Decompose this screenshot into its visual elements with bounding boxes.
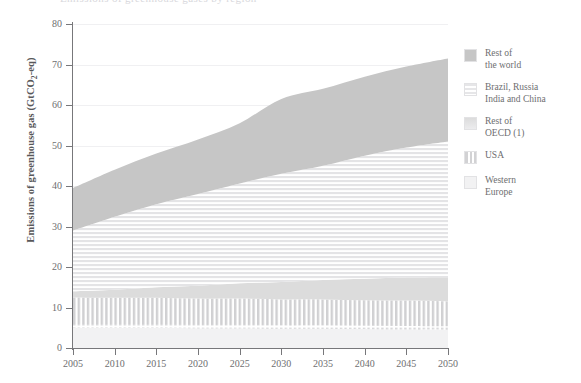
- y-tick-80: [66, 24, 73, 25]
- x-tick-2040: [365, 348, 366, 355]
- x-tick-2020: [198, 348, 199, 355]
- x-tick-label-2015: 2015: [134, 358, 178, 369]
- x-tick-label-2005: 2005: [51, 358, 95, 369]
- y-tick-label-60: 60: [20, 100, 62, 110]
- y-tick-40: [66, 186, 73, 187]
- plot-clip: [73, 24, 448, 348]
- x-tick-label-2030: 2030: [259, 358, 303, 369]
- legend-swatch-icon: [464, 176, 477, 189]
- x-tick-2030: [281, 348, 282, 355]
- y-tick-10: [66, 308, 73, 309]
- y-tick-label-20: 20: [20, 262, 62, 272]
- x-tick-label-2035: 2035: [301, 358, 345, 369]
- y-tick-label-0: 0: [20, 343, 62, 353]
- legend: Rest of the worldBrazil, Russia India an…: [464, 48, 576, 209]
- legend-label: Rest of OECD (1): [485, 116, 524, 139]
- x-tick-label-2025: 2025: [218, 358, 262, 369]
- legend-item-0[interactable]: Rest of the world: [464, 48, 576, 71]
- legend-item-1[interactable]: Brazil, Russia India and China: [464, 82, 576, 105]
- area-western-europe: [73, 328, 448, 348]
- y-tick-70: [66, 65, 73, 66]
- emissions-stacked-area-figure: Emissions of greenhouse gases by region …: [0, 0, 581, 383]
- x-tick-label-2010: 2010: [93, 358, 137, 369]
- x-tick-label-2020: 2020: [176, 358, 220, 369]
- x-tick-label-2050: 2050: [426, 358, 470, 369]
- y-tick-20: [66, 267, 73, 268]
- x-tick-2050: [448, 348, 449, 355]
- y-tick-label-40: 40: [20, 181, 62, 191]
- y-tick-50: [66, 146, 73, 147]
- y-tick-60: [66, 105, 73, 106]
- x-axis-line: [72, 348, 449, 349]
- legend-item-3[interactable]: USA: [464, 150, 576, 164]
- x-tick-2035: [323, 348, 324, 355]
- x-tick-2010: [115, 348, 116, 355]
- legend-label: Rest of the world: [485, 48, 521, 71]
- plot-area: [73, 24, 448, 348]
- x-tick-2005: [73, 348, 74, 355]
- legend-label: Brazil, Russia India and China: [485, 82, 546, 105]
- y-tick-label-10: 10: [20, 303, 62, 313]
- stacked-areas: [73, 24, 448, 348]
- x-tick-2025: [240, 348, 241, 355]
- figure-title-sliver: Emissions of greenhouse gases by region: [60, 0, 360, 4]
- y-tick-label-80: 80: [20, 19, 62, 29]
- legend-swatch-icon: [464, 49, 477, 62]
- legend-label: USA: [485, 150, 504, 162]
- y-tick-30: [66, 227, 73, 228]
- y-tick-label-30: 30: [20, 222, 62, 232]
- legend-swatch-icon: [464, 151, 477, 164]
- legend-item-4[interactable]: Western Europe: [464, 175, 576, 198]
- y-tick-0: [66, 348, 73, 349]
- x-tick-label-2045: 2045: [384, 358, 428, 369]
- y-tick-label-70: 70: [20, 60, 62, 70]
- x-tick-2015: [156, 348, 157, 355]
- legend-swatch-icon: [464, 117, 477, 130]
- legend-item-2[interactable]: Rest of OECD (1): [464, 116, 576, 139]
- legend-swatch-icon: [464, 83, 477, 96]
- y-axis-title-subscript: 2: [30, 75, 39, 79]
- x-tick-2045: [406, 348, 407, 355]
- x-tick-label-2040: 2040: [343, 358, 387, 369]
- legend-label: Western Europe: [485, 175, 516, 198]
- y-tick-label-50: 50: [20, 141, 62, 151]
